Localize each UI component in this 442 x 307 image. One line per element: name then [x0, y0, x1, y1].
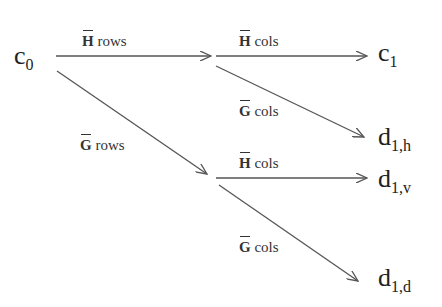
node-d1v: d1,v [378, 166, 411, 196]
edge-op: rows [95, 137, 124, 153]
matrix-symbol: G [80, 138, 92, 153]
arrow-c0-g-rows [57, 71, 207, 174]
node-c0-base: c [14, 41, 26, 70]
node-d1v-base: d [378, 164, 391, 193]
matrix-symbol: H [82, 34, 94, 49]
edge-op: cols [254, 239, 278, 255]
node-d1d: d1,d [378, 265, 411, 295]
edge-label-bottom-h-cols: H cols [239, 156, 279, 171]
matrix-symbol: H [239, 34, 251, 49]
node-c1: c1 [378, 40, 398, 70]
matrix-symbol: G [239, 240, 251, 255]
arrow-top-g-cols [216, 66, 364, 137]
edge-label-h-rows: H rows [82, 34, 127, 49]
edge-op: rows [97, 33, 126, 49]
node-d1h-sub: 1,h [391, 137, 411, 154]
node-c0: c0 [14, 43, 34, 73]
node-d1h: d1,h [378, 124, 411, 154]
node-d1v-sub: 1,v [391, 179, 411, 196]
edge-label-g-rows: G rows [80, 138, 125, 153]
node-c1-sub: 1 [390, 53, 398, 70]
edge-label-top-g-cols: G cols [239, 104, 279, 119]
edges-layer [0, 0, 442, 307]
edge-op: cols [254, 33, 278, 49]
node-d1h-base: d [378, 122, 391, 151]
node-c1-base: c [378, 38, 390, 67]
node-d1d-sub: 1,d [391, 278, 411, 295]
edge-op: cols [254, 155, 278, 171]
matrix-symbol: H [239, 156, 251, 171]
node-c0-sub: 0 [26, 56, 34, 73]
matrix-symbol: G [239, 104, 251, 119]
edge-op: cols [254, 103, 278, 119]
edge-label-top-h-cols: H cols [239, 34, 279, 49]
node-d1d-base: d [378, 263, 391, 292]
edge-label-bottom-g-cols: G cols [239, 240, 279, 255]
arrow-bottom-g-cols [219, 185, 358, 281]
